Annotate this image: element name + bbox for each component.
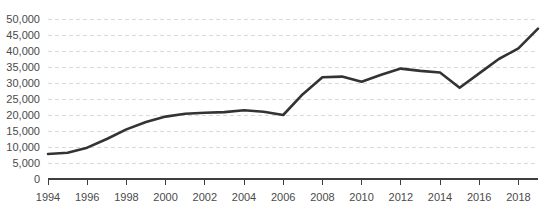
x-axis-tick-label: 2010 [349,191,373,203]
line-chart: 05,00010,00015,00020,00025,00030,00035,0… [0,0,546,217]
x-axis-tick-label: 2000 [153,191,177,203]
x-axis-tick-label: 2006 [271,191,295,203]
x-axis-tick-label: 2018 [506,191,530,203]
x-axis-tick-label: 1998 [114,191,138,203]
x-axis-tick-label: 2012 [389,191,413,203]
x-axis-tick-labels: 1994199619982000200220042006200820102012… [0,0,546,217]
x-axis-tick-label: 1994 [36,191,60,203]
x-axis-tick-label: 2004 [232,191,256,203]
x-axis-tick-label: 2014 [428,191,452,203]
x-axis-tick-label: 2002 [193,191,217,203]
x-axis-tick-label: 2008 [310,191,334,203]
x-axis-tick-label: 2016 [467,191,491,203]
x-axis-tick-label: 1996 [75,191,99,203]
